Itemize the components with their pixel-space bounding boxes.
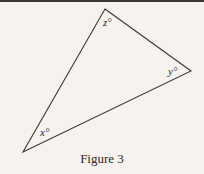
triangle-diagram: z° y° x° [0,0,204,174]
angle-label-y: y° [167,65,178,77]
angle-label-z: z° [102,16,112,28]
angle-label-x: x° [39,126,50,138]
figure-caption: Figure 3 [0,151,204,167]
